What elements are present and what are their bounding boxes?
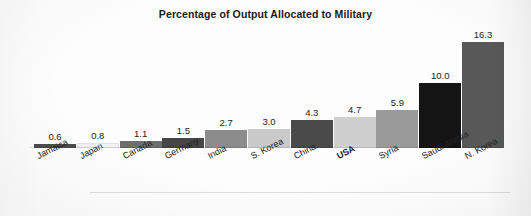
bottom-rule (90, 192, 510, 193)
bar-group[interactable]: 0.6 (34, 1, 76, 148)
bar-value-label: 2.7 (205, 117, 247, 128)
bar-value-label: 4.3 (291, 107, 333, 118)
bar-value-label: 1.1 (120, 128, 162, 139)
bar-value-label: 1.5 (162, 125, 204, 136)
bar-group[interactable]: 1.5 (162, 1, 204, 148)
bar-group[interactable]: 16.3 (462, 1, 504, 148)
bar-value-label: 16.3 (462, 29, 504, 40)
bar-group[interactable]: 0.8 (77, 1, 119, 148)
bar-value-label: 3.0 (248, 116, 290, 127)
plot-area: 0.60.81.11.52.73.04.34.75.910.016.3 (0, 0, 531, 148)
bar-group[interactable]: 5.9 (376, 1, 418, 148)
bar-value-label: 4.7 (334, 104, 376, 115)
bar[interactable] (376, 110, 418, 148)
bar-value-label: 0.8 (77, 130, 119, 141)
bar-group[interactable]: 4.3 (291, 1, 333, 148)
bar-group[interactable]: 1.1 (120, 1, 162, 148)
bar-group[interactable]: 10.0 (419, 1, 461, 148)
bar-value-label: 10.0 (419, 70, 461, 81)
bar-value-label: 5.9 (376, 97, 418, 108)
bar[interactable] (462, 42, 504, 148)
bar-group[interactable]: 2.7 (205, 1, 247, 148)
bar[interactable] (205, 130, 247, 148)
bar[interactable] (334, 117, 376, 148)
bar-group[interactable]: 3.0 (248, 1, 290, 148)
bar-group[interactable]: 4.7 (334, 1, 376, 148)
chart-figure: Percentage of Output Allocated to Milita… (0, 0, 531, 216)
